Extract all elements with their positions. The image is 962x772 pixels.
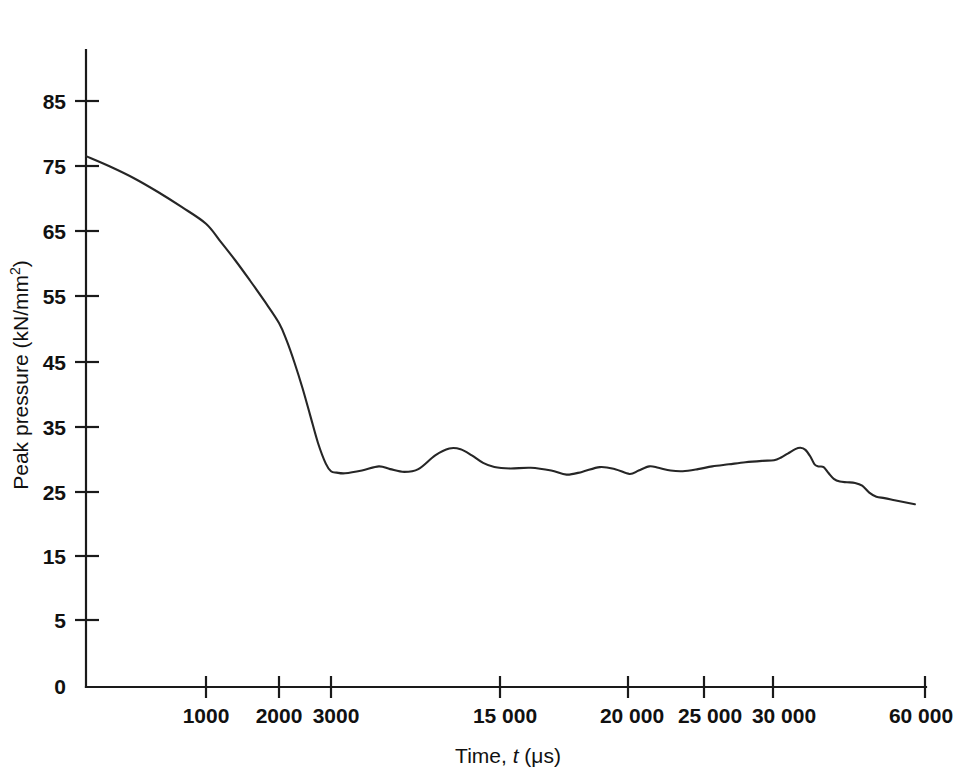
chart-figure: 0 5 15 25 35 45 55 65 75 85 1000 2000 30	[0, 0, 962, 772]
x-tick-label-25000: 25 000	[678, 704, 742, 727]
y-axis-title: Peak pressure (kN/mm2)	[7, 260, 32, 490]
y-tick-label-45: 45	[43, 351, 67, 374]
axes-group	[86, 50, 926, 687]
x-axis-title-plain: Time,	[455, 744, 513, 767]
x-axis-title-unit: (μs)	[518, 744, 560, 767]
pressure-decay-curve	[86, 156, 915, 504]
x-tick-label-3000: 3000	[313, 704, 360, 727]
y-tick-label-15: 15	[43, 545, 67, 568]
x-tick-label-30000: 30 000	[752, 704, 816, 727]
x-tick-label-1000: 1000	[183, 704, 230, 727]
y-tick-label-35: 35	[43, 416, 67, 439]
y-tick-labels: 0 5 15 25 35 45 55 65 75 85	[43, 90, 67, 698]
y-tick-label-0: 0	[54, 675, 66, 698]
x-tick-label-20000: 20 000	[600, 704, 664, 727]
y-tick-label-85: 85	[43, 90, 67, 113]
y-axis-title-superscript: 2	[7, 267, 23, 275]
y-axis-title-close: )	[9, 260, 32, 267]
y-axis-title-main: Peak pressure (kN/mm	[9, 275, 32, 490]
y-tick-label-25: 25	[43, 481, 67, 504]
y-tick-label-55: 55	[43, 285, 67, 308]
y-tick-label-65: 65	[43, 220, 67, 243]
y-tick-label-75: 75	[43, 155, 67, 178]
y-tick-label-5: 5	[54, 609, 66, 632]
peak-pressure-line-chart: 0 5 15 25 35 45 55 65 75 85 1000 2000 30	[0, 0, 962, 772]
x-tick-label-2000: 2000	[256, 704, 303, 727]
x-tick-label-15000: 15 000	[473, 704, 537, 727]
x-tick-label-60000: 60 000	[889, 704, 953, 727]
x-tick-labels: 1000 2000 3000 15 000 20 000 25 000 30 0…	[183, 704, 953, 727]
x-axis-title: Time, t (μs)	[455, 744, 561, 767]
